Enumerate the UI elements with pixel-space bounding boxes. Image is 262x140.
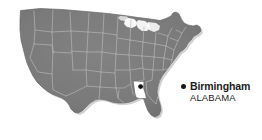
callout-city-label: Birmingham [190,80,250,92]
bullet-dot-icon [181,84,186,89]
callout-text-group: Birmingham ALABAMA [190,80,250,104]
united-states-map [0,0,262,140]
locator-map-figure: Birmingham ALABAMA [0,0,262,140]
callout-state-label: ALABAMA [190,92,250,104]
birmingham-callout: Birmingham ALABAMA [181,80,250,104]
birmingham-map-dot [138,84,143,89]
